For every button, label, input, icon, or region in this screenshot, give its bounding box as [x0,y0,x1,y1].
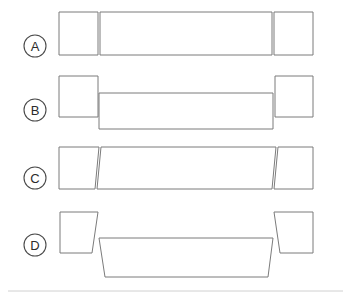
row-d-left-member [60,212,98,253]
diagram-figure: A B C D [0,0,349,298]
row-c-right-member [274,147,313,189]
row-d-label-text: D [30,238,39,253]
row-b-label-text: B [31,103,40,118]
row-d-center-member [99,238,273,277]
row-b-left-member [59,76,98,117]
row-d: D [24,212,313,277]
row-d-right-member [274,212,313,253]
row-a: A [24,12,313,57]
row-b-right-member [275,76,313,117]
row-a-label-text: A [31,39,40,54]
row-b: B [24,76,313,129]
row-c-left-member [59,147,99,189]
row-c-label-text: C [30,171,39,186]
diagram-canvas: A B C D [0,0,349,298]
row-a-center-member [100,12,272,55]
row-b-center-member [99,93,273,129]
row-c-center-member [97,147,276,189]
row-a-right-member [274,12,313,55]
row-a-left-member [59,12,98,55]
row-c: C [24,147,313,189]
